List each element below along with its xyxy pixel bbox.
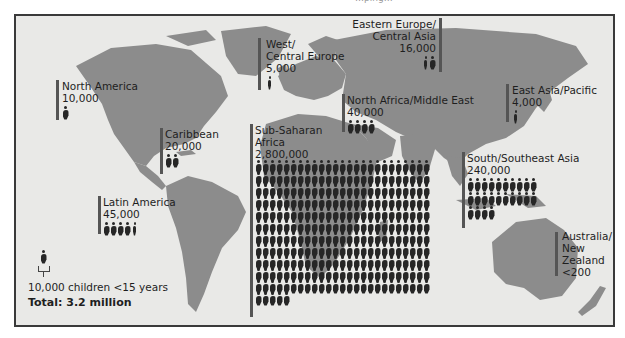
region-north-america: North America 10,000 [58, 80, 138, 120]
person-icon [339, 280, 346, 293]
person-icon [523, 192, 530, 206]
person-icon [172, 154, 179, 168]
region-name-line1: Sub-Saharan [255, 124, 431, 136]
region-name: South/Southeast Asia [467, 152, 579, 164]
legend-person-icon [40, 250, 47, 264]
region-name-line1: West/ [266, 38, 345, 50]
region-australia-new-zealand: Australia/ New Zealand <200 [558, 230, 612, 278]
person-icon [409, 280, 416, 293]
clipped-title-text: …ping… [355, 0, 393, 3]
region-bar [462, 152, 465, 228]
person-icon [467, 206, 474, 220]
region-name-line2: Africa [255, 136, 431, 148]
legend-unit-label: 10,000 children <15 years [28, 281, 168, 293]
person-icon [429, 56, 436, 70]
person-icon [474, 206, 481, 220]
region-value: 45,000 [103, 208, 176, 220]
person-icon [318, 280, 325, 293]
person-icon [269, 292, 276, 305]
person-icon [495, 192, 502, 206]
region-bar [506, 84, 509, 122]
person-icon [502, 192, 509, 206]
person-icon [516, 178, 523, 192]
south-southeast-asia-icon-grid [467, 178, 539, 220]
region-bar [98, 196, 101, 234]
region-bar [258, 38, 261, 90]
person-icon [311, 280, 318, 293]
region-bar [555, 232, 558, 276]
person-icon [346, 280, 353, 293]
person-icon [290, 280, 297, 293]
region-name-line1: Eastern Europe/ [350, 18, 436, 30]
person-icon [481, 206, 488, 220]
region-value: 4,000 [512, 96, 597, 108]
person-icon [530, 178, 537, 192]
region-latin-america: Latin America 45,000 [100, 196, 176, 236]
region-eastern-europe-central-asia: Eastern Europe/ Central Asia 16,000 [350, 18, 436, 70]
region-name: Latin America [103, 196, 176, 208]
region-value: 2,800,000 [255, 148, 431, 160]
region-bar [160, 128, 163, 174]
person-icon [481, 192, 488, 206]
person-icon [110, 222, 117, 236]
person-icon [488, 178, 495, 192]
person-icon [416, 280, 423, 293]
person-half-icon [131, 222, 138, 236]
person-icon [124, 222, 131, 236]
person-icon [516, 192, 523, 206]
person-icon [488, 192, 495, 206]
person-icon [467, 178, 474, 192]
region-bar [439, 18, 442, 72]
person-icon [481, 178, 488, 192]
legend-bracket [38, 266, 50, 272]
person-icon [367, 280, 374, 293]
person-icon [467, 192, 474, 206]
person-icon [353, 280, 360, 293]
person-icon [495, 178, 502, 192]
person-icon [474, 178, 481, 192]
region-name: North America [62, 80, 138, 92]
legend-total-label: Total: 3.2 million [28, 296, 132, 309]
person-icon [474, 192, 481, 206]
person-icon [402, 280, 409, 293]
sub-saharan-icon-grid [255, 160, 431, 304]
person-icon [165, 154, 172, 168]
person-icon [276, 292, 283, 305]
region-name: East Asia/Pacific [512, 84, 597, 96]
person-half-icon [422, 56, 429, 70]
region-name: North Africa/Middle East [347, 94, 474, 106]
person-icon [502, 178, 509, 192]
person-icon [117, 222, 124, 236]
person-icon [62, 106, 69, 120]
legend-bracket-stem [43, 271, 44, 277]
region-bar [56, 80, 59, 120]
region-name-line2: Central Asia [350, 30, 436, 42]
person-icon [304, 280, 311, 293]
person-icon [103, 222, 110, 236]
person-icon [262, 292, 269, 305]
infographic-frame: North America 10,000 West/ Central Europ… [14, 14, 615, 327]
region-name-line2: New [562, 242, 612, 254]
region-value: 240,000 [467, 164, 579, 176]
region-south-southeast-asia: South/Southeast Asia 240,000 [464, 152, 579, 220]
person-icon [530, 192, 537, 206]
person-half-icon [266, 76, 273, 90]
person-icon [360, 280, 367, 293]
person-icon [283, 292, 290, 305]
region-west-central-europe: West/ Central Europe 5,000 [262, 38, 345, 90]
person-icon [255, 292, 262, 305]
region-east-asia-pacific: East Asia/Pacific 4,000 [509, 84, 597, 124]
person-icon [297, 280, 304, 293]
person-icon [395, 280, 402, 293]
person-icon [332, 280, 339, 293]
person-icon [423, 280, 430, 293]
region-name: Caribbean [165, 128, 219, 140]
person-icon [325, 280, 332, 293]
person-icon [388, 280, 395, 293]
region-value: 5,000 [266, 62, 345, 74]
region-bar [250, 124, 253, 317]
region-caribbean: Caribbean 20,000 [162, 128, 219, 168]
region-name-line1: Australia/ [562, 230, 612, 242]
person-icon [381, 280, 388, 293]
person-icon [509, 178, 516, 192]
